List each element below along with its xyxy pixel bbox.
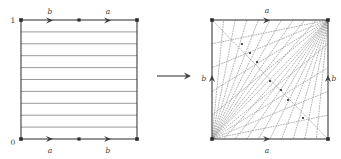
foliation-leaf-lines [21,32,137,127]
fan-intersection-dot [256,61,258,63]
fan-ray-tr-left [212,20,328,115]
fan-intersection-dot [249,52,251,54]
right-left-edge-label: b [202,74,207,83]
fan-ray-tr-bottom [258,20,328,139]
fan-intersection-dot [280,89,282,91]
fan-ray-bl-right [212,44,328,139]
fan-ray-tr-bottom [235,20,328,139]
left-foliated-square-group: 1 0 b a a b [11,7,139,155]
fan-ray-bl-top [212,20,293,139]
right-right-edge-label: b [332,74,337,83]
left-label-one: 1 [11,16,16,25]
fan-intersection-dot [269,80,271,82]
fan-intersection-dot [302,117,304,119]
right-bottom-edge-label: a [265,146,269,155]
fan-ray-tr-bottom [282,20,328,139]
left-bottom-right-edge-label: b [106,146,111,155]
left-bottom-left-edge-label: a [48,146,52,155]
fan-ray-bl-top [212,20,305,139]
dotted-geodesic-fans [212,20,328,139]
fan-intersection-dot [241,43,243,45]
fan-ray-tr-left [212,20,328,68]
fan-ray-bl-top [212,20,316,139]
left-top-left-edge-label: b [48,7,53,16]
fan-ray-tr-bottom [224,20,328,139]
left-label-zero: 0 [11,138,16,147]
fan-ray-bl-top [212,20,282,139]
fan-ray-tr-bottom [305,20,328,139]
figure-root: 1 0 b a a b [0,0,341,159]
fan-ray-bl-top [212,20,235,139]
right-laminated-square-group: a a b b [202,6,337,155]
left-top-right-edge-label: a [106,7,110,16]
right-top-edge-label: a [265,6,269,15]
maps-to-arrow [157,73,191,80]
diagram-canvas: 1 0 b a a b [0,0,341,159]
fan-ray-tr-bottom [247,20,328,139]
fan-intersection-dot [287,99,289,101]
fan-ray-bl-top [212,20,258,139]
